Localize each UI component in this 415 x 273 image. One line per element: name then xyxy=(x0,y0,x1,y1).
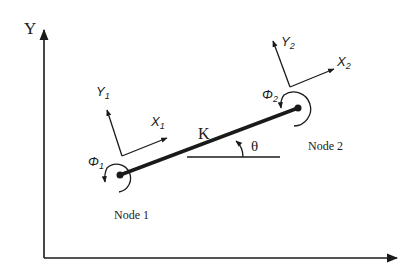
node-1-point xyxy=(117,172,124,179)
angle-label: θ xyxy=(251,138,258,154)
node-2-local-frame: Y2 X2 Φ2 Node 2 xyxy=(262,34,351,153)
node-2-local-x-axis xyxy=(290,69,334,87)
node-1-local-x-label: X1 xyxy=(150,114,165,131)
node-1-local-y-label: Y1 xyxy=(96,84,110,101)
angle-arc-arrow xyxy=(236,141,243,157)
node-1-rotation-label: Φ1 xyxy=(88,154,104,171)
diagram-canvas: Y K θ Y1 X1 Φ1 Node 1 Y2 X2 Φ2 Node 2 xyxy=(0,0,415,273)
node-1-local-x-axis xyxy=(122,138,167,156)
node-1-rotation-arrow xyxy=(105,164,131,192)
node-2-local-y-label: Y2 xyxy=(281,34,295,51)
node-2-rotation-label: Φ2 xyxy=(262,87,278,104)
node-2-point xyxy=(295,105,302,112)
node-2-label: Node 2 xyxy=(308,139,343,153)
node-1-local-frame: Y1 X1 Φ1 Node 1 xyxy=(88,84,167,222)
node-1-local-y-axis xyxy=(107,110,122,156)
global-y-label: Y xyxy=(24,19,36,38)
node-2-local-x-label: X2 xyxy=(336,54,351,71)
stiffness-label: K xyxy=(198,125,210,142)
node-1-label: Node 1 xyxy=(114,208,149,222)
beam-element: K xyxy=(117,105,302,179)
